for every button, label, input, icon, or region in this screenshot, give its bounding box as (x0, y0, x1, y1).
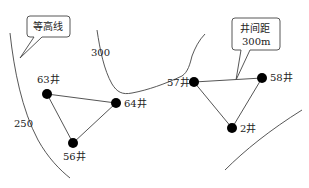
callout-well-spacing-line2: 300m (242, 36, 271, 47)
well-56-marker (68, 138, 78, 148)
well-56-label: 56井 (63, 150, 86, 162)
right-triangle (194, 78, 262, 128)
left-triangle (47, 94, 116, 143)
well-2-marker (227, 123, 237, 133)
well-63-marker (42, 89, 52, 99)
link-57-58 (194, 78, 262, 82)
link-56-63 (47, 94, 73, 143)
well-58-marker (257, 73, 267, 83)
well-2-label: 2井 (240, 122, 256, 134)
callout-contour-legend-text: 等高线 (33, 20, 63, 32)
well-57-marker (189, 77, 199, 87)
well-57-label: 57井 (167, 76, 190, 88)
link-63-64 (47, 94, 116, 103)
well-layout-diagram: 250 300 等高线 井间距 300m 63井 64井 56井 57井 58井… (0, 0, 309, 188)
well-64-marker (111, 98, 121, 108)
contour-label-300: 300 (91, 47, 110, 58)
callout-well-spacing: 井间距 300m (232, 18, 280, 80)
link-58-2 (232, 78, 262, 128)
well-63-label: 63井 (37, 73, 60, 85)
contour-line-lower-right (225, 110, 302, 170)
callout-contour-legend: 等高线 (20, 16, 70, 58)
contour-label-250: 250 (14, 118, 33, 129)
link-64-56 (73, 103, 116, 143)
well-58-label: 58井 (270, 71, 293, 83)
callout-well-spacing-line1: 井间距 (240, 22, 270, 34)
contour-line-250 (10, 33, 70, 178)
link-2-57 (194, 82, 232, 128)
well-64-label: 64井 (124, 97, 147, 109)
